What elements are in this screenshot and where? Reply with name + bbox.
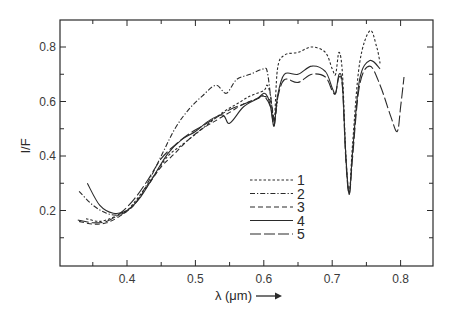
legend-label-5: 5: [297, 226, 305, 242]
series-5-line: [78, 66, 404, 223]
y-tick-label: 0.4: [39, 149, 56, 163]
series-3-line: [79, 96, 274, 224]
data-series: [78, 30, 404, 224]
plot-frame: [60, 20, 433, 266]
y-tick-label: 0.6: [39, 95, 56, 109]
x-axis-title-group: λ (μm): [215, 288, 282, 303]
series-4-line: [87, 60, 380, 213]
arrow-right-icon: [256, 293, 282, 300]
y-tick-label: 0.2: [39, 204, 56, 218]
series-1-line: [86, 30, 380, 221]
x-tick-label: 0.5: [187, 272, 204, 286]
x-axis-title: λ (μm): [215, 288, 252, 303]
chart: 0.40.50.60.70.8 0.20.40.60.8 12345 I/F λ…: [0, 0, 452, 315]
y-axis-title: I/F: [18, 138, 33, 153]
y-tick-label: 0.8: [39, 40, 56, 54]
plot-border: [60, 20, 433, 266]
x-tick-label: 0.4: [119, 272, 136, 286]
x-tick-label: 0.8: [392, 272, 409, 286]
legend: 12345: [250, 172, 305, 242]
y-axis-ticks: 0.20.40.60.8: [39, 40, 433, 238]
x-tick-label: 0.7: [324, 272, 341, 286]
x-tick-label: 0.6: [255, 272, 272, 286]
series-2-line: [79, 68, 277, 215]
x-axis-ticks: 0.40.50.60.70.8: [93, 20, 409, 286]
